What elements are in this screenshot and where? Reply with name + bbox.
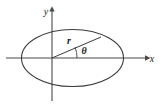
diagram-canvas: x y r θ: [0, 0, 167, 105]
y-axis-arrow-icon: [49, 6, 54, 11]
angle-label: θ: [81, 45, 87, 56]
ellipse-polar-diagram: x y r θ: [0, 0, 167, 105]
radius-label: r: [67, 35, 71, 46]
y-axis-label: y: [43, 6, 49, 17]
x-axis-label: x: [149, 53, 155, 64]
angle-arc: [75, 47, 77, 58]
